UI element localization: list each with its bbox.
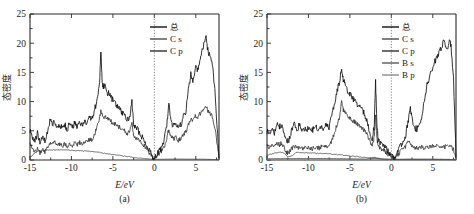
y-tick-label: 10 — [17, 97, 27, 107]
x-tick-label: -10 — [65, 163, 78, 173]
axis-spines — [267, 14, 456, 160]
y-tick-label: 5 — [258, 126, 263, 136]
legend-label-total: 总 — [402, 22, 411, 32]
panel-a-plot: 0510152025-15-10-505E/eV(a)态密度总C sC p — [0, 0, 237, 214]
x-tick-label: 5 — [193, 163, 198, 173]
x-axis-title: E/eV — [351, 180, 372, 190]
y-tick-label: 15 — [17, 68, 27, 78]
x-tick-label: 5 — [430, 163, 435, 173]
y-tick-label: 10 — [254, 97, 264, 107]
x-tick-label: 0 — [152, 163, 157, 173]
y-tick-label: 25 — [17, 9, 27, 19]
x-tick-label: -5 — [109, 163, 117, 173]
legend-label-cp: C p — [402, 46, 415, 56]
y-tick-label: 20 — [17, 39, 27, 49]
y-tick-label: 20 — [254, 39, 264, 49]
axis-spines — [30, 14, 219, 160]
legend-label-cs: C s — [170, 34, 182, 44]
x-axis-title: E/eV — [114, 180, 135, 190]
legend-label-cs: C s — [402, 34, 414, 44]
panel-a: 0510152025-15-10-505E/eV(a)态密度总C sC p — [0, 0, 237, 214]
y-axis-title: 态密度 — [238, 74, 249, 101]
curve-总 — [267, 40, 456, 160]
panel-b-plot: 0510152025-15-10-505E/eV(b)态密度总C sC pB s… — [237, 0, 474, 214]
legend-label-bp: B p — [402, 70, 415, 80]
curve-c-s — [30, 150, 219, 160]
x-tick-label: -15 — [24, 163, 37, 173]
curve-c-p — [267, 101, 456, 160]
x-tick-label: 0 — [389, 163, 394, 173]
dos-figure: 0510152025-15-10-505E/eV(a)态密度总C sC p 05… — [0, 0, 474, 214]
y-tick-label: 25 — [254, 9, 264, 19]
x-tick-label: -5 — [346, 163, 354, 173]
legend-label-bs: B s — [402, 58, 414, 68]
panel-b: 0510152025-15-10-505E/eV(b)态密度总C sC pB s… — [237, 0, 474, 214]
curve-总 — [30, 36, 219, 160]
panel-label: (a) — [119, 194, 130, 205]
panel-label: (b) — [356, 194, 367, 205]
legend-label-cp: C p — [170, 46, 183, 56]
y-axis-title: 态密度 — [1, 74, 12, 101]
y-tick-label: 5 — [21, 126, 26, 136]
x-tick-label: -15 — [261, 163, 274, 173]
x-tick-label: -10 — [302, 163, 315, 173]
y-tick-label: 15 — [254, 68, 264, 78]
legend-label-total: 总 — [170, 22, 179, 32]
